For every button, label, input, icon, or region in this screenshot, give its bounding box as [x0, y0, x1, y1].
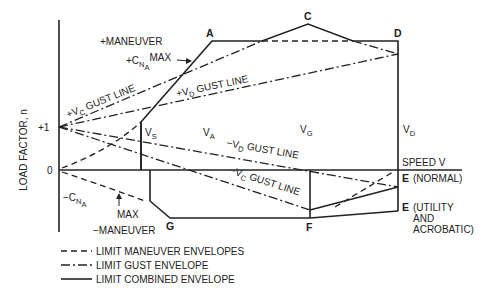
- plus-cna-max-label: +CNAMAX: [126, 52, 172, 72]
- point-e-normal: E: [402, 172, 409, 184]
- legend-combined-label: LIMIT COMBINED ENVELOPE: [96, 274, 235, 285]
- minus-max-label: MAX: [117, 209, 139, 220]
- minus-maneuver-label: −MANEUVER: [93, 225, 156, 236]
- legend-gust-label: LIMIT GUST ENVELOPE: [96, 260, 209, 271]
- e-normal-note: (NORMAL): [413, 173, 462, 184]
- legend-maneuver-label: LIMIT MANEUVER ENVELOPES: [96, 246, 245, 257]
- speed-vs: VS: [145, 127, 157, 141]
- minus-max-arrowhead-icon: [116, 193, 122, 199]
- e-utility-note-2: AND: [413, 213, 434, 224]
- point-a: A: [206, 27, 214, 39]
- point-f: F: [306, 221, 313, 233]
- minus-vd-gust-label: −VD GUST LINE: [225, 137, 300, 164]
- speed-va: VA: [203, 127, 215, 141]
- minus-vd-gust-line: [59, 127, 398, 187]
- plus-cna-arrowhead-icon: [186, 58, 192, 64]
- tick-plus-one: +1: [38, 122, 50, 133]
- speed-vd: VD: [403, 124, 416, 138]
- e-utility-note-3: ACROBATIC): [413, 224, 474, 235]
- point-e-utility: E: [402, 201, 409, 213]
- e-utility-note-1: (UTILITY: [413, 202, 454, 213]
- minus-cna-label: −CNA: [63, 192, 87, 209]
- tick-zero: 0: [47, 165, 53, 176]
- point-d: D: [394, 27, 402, 39]
- positive-maneuver-curve: [62, 122, 141, 168]
- minus-vc-gust-line: [59, 127, 310, 210]
- c-to-d-gust: [353, 41, 398, 54]
- x-axis-label: SPEED V: [402, 157, 446, 168]
- plus-vc-gust-label: +VC GUST LINE: [65, 82, 139, 123]
- point-c: C: [304, 10, 312, 22]
- vg-diagram: LOAD FACTOR, n +1 0 A C D G F SPEED V E …: [0, 0, 492, 298]
- speed-vg: VG: [300, 124, 313, 138]
- plus-vd-gust-label: +VD GUST LINE: [175, 73, 250, 102]
- f-to-e-normal: [310, 187, 398, 210]
- point-g: G: [166, 220, 174, 232]
- y-axis-label: LOAD FACTOR, n: [18, 109, 29, 191]
- plus-maneuver-label: +MANEUVER: [100, 36, 163, 47]
